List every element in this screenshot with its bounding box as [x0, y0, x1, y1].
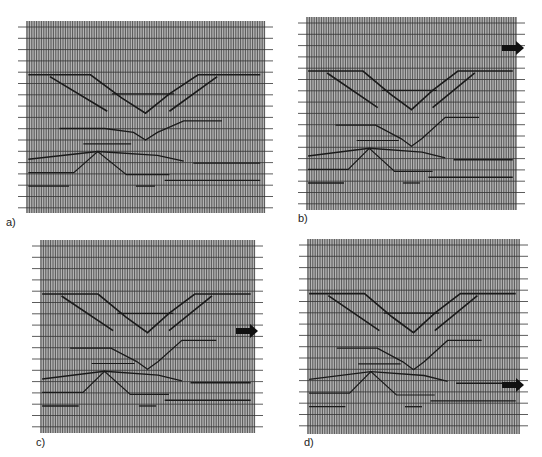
- panel-label-a: a): [6, 216, 16, 228]
- panel-label-d: d): [304, 436, 314, 448]
- seismic-panel-d: [295, 239, 532, 434]
- seismic-panel-b: [294, 17, 529, 210]
- seismic-panel-c: [28, 240, 267, 433]
- arrow-marker-icon: [236, 324, 260, 338]
- panel-label-b: b): [298, 212, 308, 224]
- panel-label-c: c): [36, 436, 45, 448]
- arrow-marker-icon: [502, 378, 526, 392]
- seismic-panel-a: [14, 21, 277, 213]
- arrow-marker-icon: [502, 41, 526, 55]
